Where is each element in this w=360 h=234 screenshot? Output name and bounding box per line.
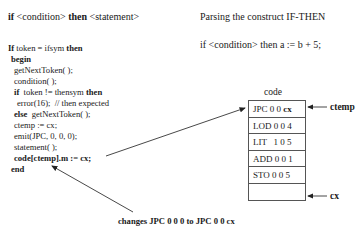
arrow-annotation-to-code-icon xyxy=(52,166,133,212)
arrow-code-to-jpc-icon xyxy=(106,108,245,156)
arrows-layer xyxy=(0,0,360,234)
